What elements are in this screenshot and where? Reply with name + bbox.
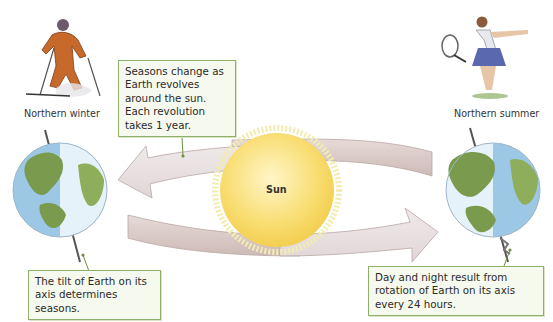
earth-northern-summer xyxy=(446,128,540,262)
caption-northern-winter: Northern winter xyxy=(24,108,100,119)
callout-rotation: Day and night result from rotation of Ea… xyxy=(368,266,544,316)
callout-revolution: Seasons change as Earth revolves around … xyxy=(118,60,236,137)
caption-northern-summer: Northern summer xyxy=(454,108,539,119)
sun-label: Sun xyxy=(266,184,287,195)
tennis-player-icon xyxy=(442,17,528,100)
seasons-diagram: Northern winter Northern summer Sun Seas… xyxy=(0,0,553,322)
callout-tilt: The tilt of Earth on its axis determines… xyxy=(28,270,161,320)
skier-icon xyxy=(26,19,100,97)
earth-northern-winter xyxy=(13,130,107,262)
